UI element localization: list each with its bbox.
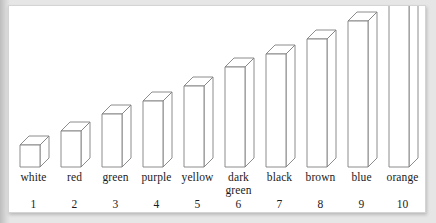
bar-name-line-1: green <box>95 171 136 184</box>
bar-3d-white[interactable] <box>19 135 50 168</box>
bar-number-label: 6 <box>218 198 259 211</box>
bar-face-frontRect <box>348 21 368 167</box>
bar-name-label: black <box>259 171 300 184</box>
bar-face-frontRect <box>184 86 204 167</box>
bar-column-green[interactable]: green3 <box>95 6 136 213</box>
bar-face-frontRect <box>143 101 163 167</box>
bar-number-label: 3 <box>95 198 136 211</box>
bar-face-frontRect <box>307 39 327 167</box>
bar-face-frontRect <box>61 131 81 167</box>
bar-column-white[interactable]: white1 <box>13 6 54 213</box>
bar-3d-black[interactable] <box>265 44 296 168</box>
bar-number-label: 1 <box>13 198 54 211</box>
bar-column-purple[interactable]: purple4 <box>136 6 177 213</box>
bar-name-label: white <box>13 171 54 184</box>
bar-face-sideFace <box>122 105 131 167</box>
bar-name-line-1: white <box>13 171 54 184</box>
bar-name-line-1: red <box>54 171 95 184</box>
bar-chart-plot: white1red2green3purple4yellow5darkgreen6… <box>9 6 426 213</box>
bar-3d-purple[interactable] <box>142 91 173 168</box>
bar-number-label: 4 <box>136 198 177 211</box>
bar-face-frontRect <box>102 114 122 167</box>
bar-face-sideFace <box>204 77 213 167</box>
bar-number-label: 5 <box>177 198 218 211</box>
bar-name-label: red <box>54 171 95 184</box>
bar-3d-red[interactable] <box>60 121 91 168</box>
bar-name-label: green <box>95 171 136 184</box>
bar-3d-green[interactable] <box>101 104 132 168</box>
bar-column-brown[interactable]: brown8 <box>300 6 341 213</box>
bar-3d-yellow[interactable] <box>183 76 214 168</box>
bar-name-line-1: black <box>259 171 300 184</box>
bar-name-line-2: green <box>218 184 259 197</box>
bar-name-line-1: orange <box>382 171 423 184</box>
bar-face-frontRect <box>266 54 286 167</box>
bar-name-label: purple <box>136 171 177 184</box>
bar-3d-brown[interactable] <box>306 29 337 168</box>
chart-canvas: white1red2green3purple4yellow5darkgreen6… <box>8 5 426 213</box>
bar-number-label: 10 <box>382 198 423 211</box>
bar-column-dark-green[interactable]: darkgreen6 <box>218 6 259 213</box>
bar-name-line-1: blue <box>341 171 382 184</box>
figure-container: white1red2green3purple4yellow5darkgreen6… <box>0 0 436 223</box>
bar-face-sideFace <box>409 5 418 167</box>
bar-name-label: brown <box>300 171 341 184</box>
bar-3d-orange[interactable] <box>388 5 419 168</box>
bar-face-sideFace <box>368 12 377 167</box>
bar-number-label: 2 <box>54 198 95 211</box>
bar-column-red[interactable]: red2 <box>54 6 95 213</box>
bar-name-line-1: dark <box>218 171 259 184</box>
bar-3d-dark-green[interactable] <box>224 57 255 168</box>
bar-number-label: 8 <box>300 198 341 211</box>
bar-number-label: 7 <box>259 198 300 211</box>
bar-face-frontRect <box>389 5 409 167</box>
bar-3d-blue[interactable] <box>347 11 378 168</box>
bar-name-line-1: yellow <box>177 171 218 184</box>
bar-name-label: yellow <box>177 171 218 184</box>
bar-face-sideFace <box>286 45 295 167</box>
bar-column-yellow[interactable]: yellow5 <box>177 6 218 213</box>
bar-column-blue[interactable]: blue9 <box>341 6 382 213</box>
bar-face-sideFace <box>327 30 336 167</box>
bar-face-frontRect <box>225 67 245 167</box>
bar-number-label: 9 <box>341 198 382 211</box>
bar-face-frontRect <box>20 145 40 167</box>
bar-face-sideFace <box>245 58 254 167</box>
bar-column-black[interactable]: black7 <box>259 6 300 213</box>
bar-name-label: orange <box>382 171 423 184</box>
bar-name-line-1: brown <box>300 171 341 184</box>
bar-column-orange[interactable]: orange10 <box>382 6 423 213</box>
bar-face-sideFace <box>163 92 172 167</box>
bar-name-label: darkgreen <box>218 171 259 196</box>
bar-name-line-1: purple <box>136 171 177 184</box>
bar-name-label: blue <box>341 171 382 184</box>
